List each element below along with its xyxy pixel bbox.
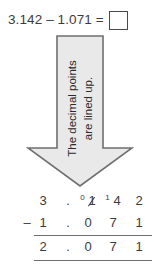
minuend-tenths-regrouped: 0 1 xyxy=(79,193,97,208)
difference-row: 2 . 0 7 1 xyxy=(0,236,162,258)
difference-tenths: 0 xyxy=(79,239,97,254)
equation-row: 3.142 – 1.071 = xyxy=(8,9,128,31)
minuend-thousandths: 2 xyxy=(130,193,148,208)
minuend-tenths-carry: 0 xyxy=(80,193,84,202)
equation-expression: 3.142 – 1.071 = xyxy=(8,13,104,27)
difference-whole: 2 xyxy=(34,239,52,254)
minuend-tenths-struck-digit: 1 xyxy=(88,193,95,208)
minuend-hundredths-carry: 1 xyxy=(105,193,109,202)
difference-hundredths: 7 xyxy=(104,239,122,254)
minuend-hundredths-regrouped: 1 4 xyxy=(104,193,122,208)
subtrahend-thousandths: 1 xyxy=(130,215,148,230)
minuend-hundredths: 4 xyxy=(113,193,120,208)
difference-thousandths: 1 xyxy=(130,239,148,254)
minuend-decimal-point: . xyxy=(59,193,77,208)
subtrahend-row: – 1 . 0 7 1 xyxy=(0,212,162,234)
subtrahend-hundredths: 7 xyxy=(104,215,122,230)
vertical-subtraction: 3 . 0 1 1 4 2 – 1 . 0 7 1 2 . 0 7 1 xyxy=(0,190,162,272)
minuend-row: 3 . 0 1 1 4 2 xyxy=(0,190,162,212)
difference-decimal-point: . xyxy=(59,239,77,254)
minuend-whole: 3 xyxy=(34,193,52,208)
minus-operator: – xyxy=(20,215,34,230)
arrow-shape xyxy=(26,35,134,188)
subtraction-rule-bottom xyxy=(34,260,152,261)
subtrahend-tenths: 0 xyxy=(79,215,97,230)
subtrahend-whole: 1 xyxy=(34,215,52,230)
subtrahend-decimal-point: . xyxy=(59,215,77,230)
callout-arrow-down xyxy=(26,35,134,188)
answer-input-box[interactable] xyxy=(109,11,128,30)
